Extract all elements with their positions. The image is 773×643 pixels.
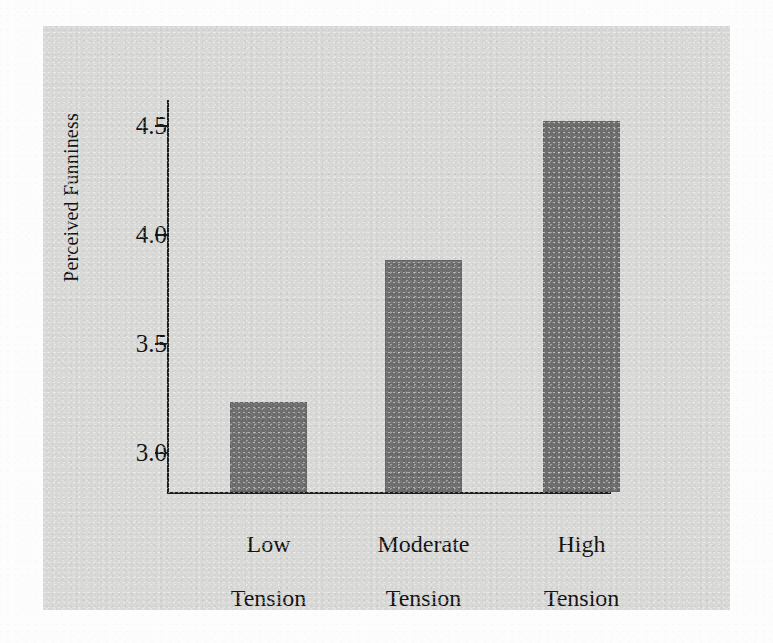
x-tick-label-line1: High: [558, 531, 606, 557]
x-tick-label-line2: Tension: [386, 585, 462, 611]
x-tick-label-moderate-tension: Moderate Tension: [334, 504, 514, 612]
x-tick-label-low-tension: Low Tension: [179, 504, 359, 612]
x-tick-label-line1: Moderate: [378, 531, 470, 557]
x-tick-label-line1: Low: [247, 531, 291, 557]
y-axis-title: Perceived Funniness: [60, 28, 83, 368]
y-axis-line: [167, 100, 169, 494]
bar-low-tension: [230, 402, 307, 492]
x-tick-label-line2: Tension: [231, 585, 307, 611]
scanned-page: Perceived Funniness 3.0 3.5 4.0 4.5: [0, 0, 773, 643]
x-tick-label-high-tension: High Tension: [492, 504, 672, 612]
x-axis-line: [167, 492, 611, 494]
x-tick-label-line2: Tension: [544, 585, 620, 611]
y-tick-label: 4.0: [107, 222, 167, 247]
bar-moderate-tension: [385, 260, 462, 492]
y-tick-label: 3.0: [107, 440, 167, 465]
y-tick-label: 4.5: [107, 113, 167, 138]
chart-figure-panel: Perceived Funniness 3.0 3.5 4.0 4.5: [43, 26, 730, 610]
bar-high-tension: [543, 121, 620, 492]
y-tick-label: 3.5: [107, 331, 167, 356]
bar-chart-plot-area: Perceived Funniness 3.0 3.5 4.0 4.5: [43, 26, 730, 610]
